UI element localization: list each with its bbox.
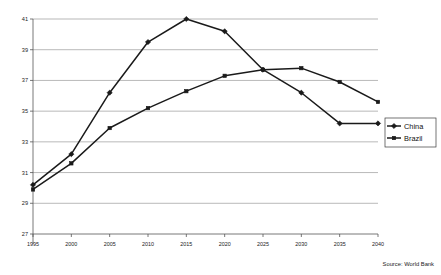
legend-label: Brazil (404, 134, 423, 143)
data-point-china-2040 (375, 121, 380, 126)
data-point-brazil-2015 (185, 89, 188, 92)
y-tick-label: 37 (22, 77, 28, 83)
chart-legend: ChinaBrazil (385, 118, 436, 147)
y-axis-tick-labels: 2729313335373941 (22, 16, 28, 237)
source-note: Source: World Bank (383, 261, 435, 267)
data-point-brazil-2000 (70, 162, 73, 165)
data-point-brazil-2005 (108, 126, 111, 129)
x-tick-label: 2030 (295, 241, 307, 247)
y-tick-label: 41 (22, 16, 28, 22)
y-tick-label: 27 (22, 231, 28, 237)
data-series-group (30, 16, 380, 191)
x-tick-label: 2010 (142, 241, 154, 247)
x-tick-label: 2020 (219, 241, 231, 247)
x-tick-label: 2015 (180, 241, 192, 247)
data-point-brazil-2010 (146, 106, 149, 109)
series-china (30, 16, 380, 187)
line-chart: 2729313335373941 19952000200520102015202… (0, 0, 441, 275)
data-point-brazil-2035 (338, 80, 341, 83)
x-tick-label: 2040 (372, 241, 384, 247)
y-axis-tick-marks (30, 19, 33, 234)
x-tick-label: 2005 (104, 241, 116, 247)
x-tick-label: 2035 (334, 241, 346, 247)
x-axis-tick-marks (33, 234, 378, 237)
x-tick-label: 2025 (257, 241, 269, 247)
data-point-brazil-2030 (300, 66, 303, 69)
series-line-brazil (33, 68, 378, 189)
data-point-brazil-2025 (261, 68, 264, 71)
y-tick-label: 31 (22, 170, 28, 176)
legend-marker-square-icon (392, 136, 395, 139)
data-point-brazil-2040 (376, 100, 379, 103)
data-point-brazil-1995 (31, 188, 34, 191)
y-tick-label: 35 (22, 108, 28, 114)
gridlines (33, 19, 378, 203)
data-point-brazil-2020 (223, 74, 226, 77)
y-tick-label: 39 (22, 47, 28, 53)
chart-canvas: 2729313335373941 19952000200520102015202… (0, 0, 441, 275)
legend-label: China (404, 122, 424, 131)
y-tick-label: 33 (22, 139, 28, 145)
y-tick-label: 29 (22, 200, 28, 206)
x-tick-label: 2000 (65, 241, 77, 247)
series-line-china (33, 19, 378, 185)
x-axis-tick-labels: 1995200020052010201520202025203020352040 (27, 241, 384, 247)
